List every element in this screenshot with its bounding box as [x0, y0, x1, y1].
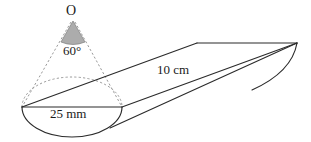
figure-drawing-canvas: [0, 0, 311, 142]
lower-ridge-icon: [122, 43, 297, 107]
tip-curved-edge-icon: [252, 43, 297, 90]
apex-angle-label: 60°: [63, 44, 81, 57]
apex-label: O: [66, 4, 76, 18]
dashed-guide-line-left-icon: [22, 22, 71, 107]
dashed-guide-line-right-icon: [75, 22, 122, 107]
ellipse-upper-arc-dashed-icon: [22, 77, 122, 107]
base-diameter-label: 25 mm: [50, 107, 86, 120]
bottom-body-edge-icon: [110, 43, 297, 128]
geometry-figure: O 60° 25 mm 10 cm: [0, 0, 311, 142]
shaded-cone-icon: [61, 21, 85, 45]
slant-length-label: 10 cm: [157, 63, 189, 76]
